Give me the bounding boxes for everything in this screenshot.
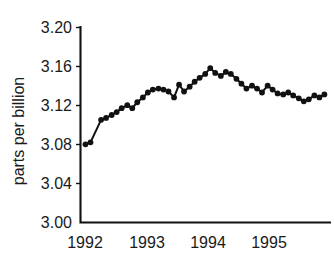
- axis-lines: [81, 27, 331, 223]
- data-point: [254, 86, 260, 92]
- data-point: [119, 105, 125, 111]
- data-point: [83, 141, 89, 147]
- data-point: [187, 84, 193, 90]
- x-tick-label-1993: 1993: [129, 234, 165, 251]
- data-point: [145, 90, 151, 96]
- data-point: [197, 75, 203, 81]
- data-series-group: [83, 65, 328, 147]
- data-point: [239, 81, 245, 87]
- y-tick-label-3.04: 3.04: [41, 175, 72, 192]
- data-point: [150, 87, 156, 93]
- x-tick-label-1994: 1994: [190, 234, 226, 251]
- chart-figure: 3.20 3.16 3.12 3.08 3.04 3.00 parts per …: [0, 0, 334, 263]
- data-point: [166, 89, 172, 95]
- data-point: [259, 90, 265, 96]
- data-point: [207, 65, 213, 71]
- data-point: [218, 73, 224, 79]
- y-axis-title-group: parts per billion: [10, 77, 27, 186]
- data-point: [234, 76, 240, 82]
- data-point: [249, 83, 255, 89]
- y-axis-title: parts per billion: [10, 77, 27, 186]
- data-point: [114, 109, 120, 115]
- data-point: [228, 71, 234, 77]
- data-point: [312, 93, 318, 99]
- x-axis-tick-labels: 1992 1993 1994 1995: [67, 234, 287, 251]
- data-point: [192, 79, 198, 85]
- data-point: [103, 115, 109, 121]
- data-point: [140, 94, 146, 100]
- data-point: [156, 86, 162, 92]
- data-point: [161, 87, 167, 93]
- series-markers-concentration: [83, 65, 328, 147]
- data-point: [212, 70, 218, 76]
- data-point: [275, 91, 281, 97]
- data-point: [181, 89, 187, 95]
- data-point: [270, 87, 276, 93]
- data-point: [176, 82, 182, 88]
- x-tick-label-1995: 1995: [251, 234, 287, 251]
- data-point: [321, 92, 327, 98]
- data-point: [171, 94, 177, 100]
- y-tick-label-3.00: 3.00: [41, 214, 72, 231]
- y-tick-label-3.08: 3.08: [41, 136, 72, 153]
- data-point: [285, 90, 291, 96]
- y-tick-label-3.12: 3.12: [41, 97, 72, 114]
- data-point: [88, 139, 94, 145]
- data-point: [134, 99, 140, 105]
- axis-spines: [81, 27, 331, 223]
- data-point: [290, 93, 296, 99]
- y-axis-tick-labels: 3.20 3.16 3.12 3.08 3.04 3.00: [41, 19, 72, 231]
- data-point: [301, 98, 307, 104]
- line-chart: 3.20 3.16 3.12 3.08 3.04 3.00 parts per …: [0, 0, 334, 263]
- data-point: [129, 105, 135, 111]
- data-point: [109, 112, 115, 118]
- data-point: [223, 69, 229, 75]
- y-tick-label-3.16: 3.16: [41, 58, 72, 75]
- data-point: [124, 102, 130, 108]
- data-point: [280, 92, 286, 98]
- x-tick-label-1992: 1992: [67, 234, 103, 251]
- data-point: [296, 95, 302, 101]
- data-point: [265, 83, 271, 89]
- data-point: [317, 94, 323, 100]
- data-point: [244, 86, 250, 92]
- y-tick-label-3.20: 3.20: [41, 19, 72, 36]
- data-point: [202, 71, 208, 77]
- data-point: [98, 117, 104, 123]
- data-point: [306, 96, 312, 102]
